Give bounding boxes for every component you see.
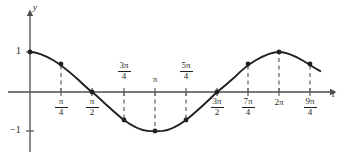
x-tick-label-pi-over-2: π 2 [77, 97, 107, 118]
t-axis [8, 89, 337, 95]
x-tick-label-5pi-over-4: 5π 4 [171, 61, 201, 82]
t-axis-label: t [332, 90, 335, 99]
x-tick-label-2pi: 2π [264, 97, 294, 107]
x-tick-label-9pi-over-4: 9π 4 [295, 97, 325, 118]
cosine-graph-figure: y t 1 −1 π 4 π 2 3π 4 π 5π 4 3π 2 7π 4 2… [0, 0, 342, 162]
x-tick-label-pi-over-4: π 4 [46, 97, 76, 118]
x-tick-label-pi: π [140, 74, 170, 84]
y-tick-label-1: 1 [16, 46, 21, 56]
x-tick-label-3pi-over-4: 3π 4 [109, 61, 139, 82]
y-tick-label-neg1: −1 [10, 125, 21, 135]
x-tick-label-3pi-over-2: 3π 2 [202, 97, 232, 118]
x-tick-label-7pi-over-4: 7π 4 [233, 97, 263, 118]
y-axis-label: y [33, 3, 37, 12]
